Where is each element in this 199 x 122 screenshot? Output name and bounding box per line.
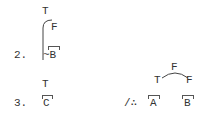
bottom-label: C — [43, 98, 50, 109]
tree-left: T — [154, 75, 161, 86]
item-number: 3. — [14, 98, 27, 109]
right-label: B — [184, 98, 191, 109]
therefore-symbol: /∴ — [124, 98, 137, 109]
left-label: A — [150, 98, 157, 109]
top-label: T — [42, 6, 49, 17]
item-number: 2. — [14, 50, 27, 61]
bottom-label: ~B — [43, 50, 56, 61]
branch-label: F — [51, 22, 58, 33]
tree-lines — [0, 0, 199, 122]
top-label: T — [42, 79, 49, 90]
tree-top: F — [171, 62, 178, 73]
tree-right: F — [186, 75, 193, 86]
